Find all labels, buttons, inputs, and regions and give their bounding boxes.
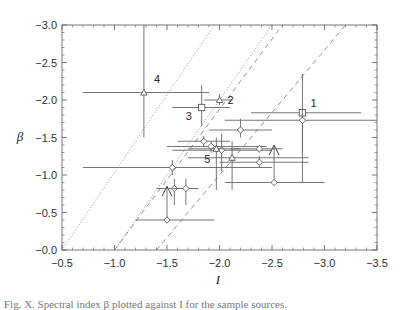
x-tick-label: −3.5 [366,257,388,269]
data-point [225,108,377,183]
point-label: 1 [310,97,316,109]
y-tick-label: −1.0 [35,169,57,181]
diamond-marker [183,185,189,191]
x-tick-label: −3.0 [314,257,336,269]
x-tick-label: −2.5 [261,257,283,269]
plot-border [62,25,377,250]
x-tick-label: −0.5 [51,257,73,269]
diamond-marker [164,217,170,223]
point-label: 5 [204,153,210,165]
plot-frame [62,25,377,250]
data-point [209,119,272,138]
diamond-marker [271,179,277,185]
point-label: 3 [186,110,192,122]
y-tick-label: −2.5 [35,57,57,69]
y-tick-label: −2.0 [35,94,57,106]
diamond-marker [237,127,243,133]
diamond-marker [201,138,207,144]
data-point: 3 [172,85,230,126]
data-point [172,179,198,205]
point-label: 2 [228,94,234,106]
x-tick-label: −1.0 [104,257,126,269]
y-axis-label: β [16,129,24,144]
data-point: 2 [204,94,234,106]
square-marker [198,104,204,110]
x-axis-label: I [215,272,221,287]
diamond-marker [299,117,305,123]
data-point [157,179,194,205]
x-tick-label: −1.5 [156,257,178,269]
figure-caption: Fig. X. Spectral index β plotted against… [4,298,409,310]
point-label: 4 [154,73,160,85]
y-tick-label: −3.0 [35,19,57,31]
data-points: 43215 [83,25,377,223]
y-tick-label: −0.0 [35,244,57,256]
scatter-plot: 43215 −0.5−1.0−1.5−2.0−2.5−3.0−3.5−0.0−0… [0,0,409,300]
data-point [178,136,231,147]
y-tick-label: −0.5 [35,207,57,219]
reference-line [62,25,214,250]
diamond-marker [256,159,262,165]
reference-line [115,25,283,250]
data-point: 1 [251,74,361,153]
reference-line [157,25,346,250]
y-tick-label: −1.5 [35,132,57,144]
x-tick-label: −2.0 [209,257,231,269]
data-point [136,186,215,223]
